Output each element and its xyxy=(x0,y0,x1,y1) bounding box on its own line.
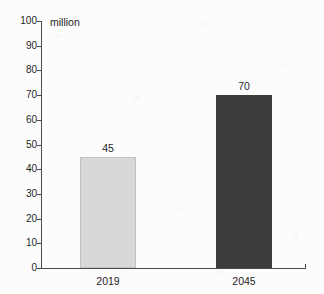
y-axis-tick-label-text: 10 xyxy=(5,238,37,248)
y-axis-tick-label: 40 xyxy=(0,164,37,174)
y-axis-tick-label: 10 xyxy=(0,238,37,248)
y-axis-tick xyxy=(37,46,41,47)
y-axis-tick-label-text: 80 xyxy=(5,65,37,75)
y-axis-tick-label: 100 xyxy=(0,16,37,26)
y-axis-tick xyxy=(37,120,41,121)
y-axis-tick xyxy=(37,243,41,244)
category-label-2045: 2045 xyxy=(216,275,272,287)
y-axis-tick xyxy=(37,145,41,146)
y-axis-tick-label: 50 xyxy=(0,140,37,150)
y-axis-tick-label-text: 20 xyxy=(5,214,37,224)
y-axis-unit-label: million xyxy=(50,16,80,28)
bar-chart: 0102030405060708090100 million 45 70 201… xyxy=(0,0,324,294)
y-axis-tick xyxy=(37,95,41,96)
y-axis-tick xyxy=(37,21,41,22)
y-axis-tick-label: 70 xyxy=(0,90,37,100)
y-axis-tick xyxy=(37,219,41,220)
y-axis-line xyxy=(41,21,42,269)
y-axis-tick xyxy=(37,169,41,170)
y-axis-tick-label-text: 30 xyxy=(5,189,37,199)
y-axis-tick xyxy=(37,194,41,195)
y-axis-tick-label-text: 90 xyxy=(5,41,37,51)
y-axis-tick xyxy=(37,70,41,71)
y-axis-tick-label-text: 70 xyxy=(5,90,37,100)
x-axis-end-tick xyxy=(305,264,306,269)
y-axis-tick-label-text: 0 xyxy=(5,263,37,273)
bar-value-2019: 45 xyxy=(80,142,136,154)
y-axis-tick-label: 30 xyxy=(0,189,37,199)
y-axis-tick-label-text: 100 xyxy=(5,16,37,26)
y-axis-tick xyxy=(37,268,41,269)
category-label-2019: 2019 xyxy=(80,275,136,287)
bar-value-2045: 70 xyxy=(216,80,272,92)
y-axis-tick-label-text: 50 xyxy=(5,140,37,150)
y-axis-tick-label-text: 60 xyxy=(5,115,37,125)
y-axis-tick-label: 0 xyxy=(0,263,37,273)
bar-2045 xyxy=(216,95,272,268)
y-axis-tick-label: 80 xyxy=(0,65,37,75)
plot-area: 0102030405060708090100 million 45 70 201… xyxy=(0,0,324,294)
y-axis-tick-label: 60 xyxy=(0,115,37,125)
y-axis-tick-label: 90 xyxy=(0,41,37,51)
y-axis-tick-label-text: 40 xyxy=(5,164,37,174)
x-axis-line xyxy=(41,268,306,269)
y-axis-tick-label: 20 xyxy=(0,214,37,224)
bar-2019 xyxy=(80,157,136,268)
